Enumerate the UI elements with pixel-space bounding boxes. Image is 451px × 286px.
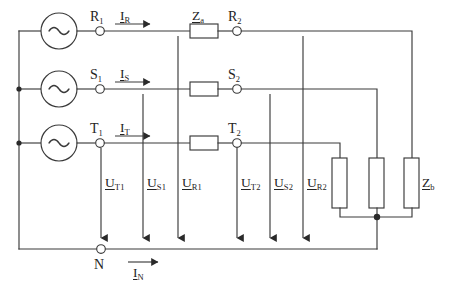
label-terminal-t2: T2 bbox=[228, 120, 241, 136]
label-voltage-u-r1: UR1 bbox=[182, 174, 202, 190]
terminal-r1[interactable] bbox=[96, 27, 105, 36]
label-terminal-n: N bbox=[94, 256, 104, 272]
terminal-s1[interactable] bbox=[96, 85, 105, 94]
ac-source-s bbox=[41, 71, 95, 107]
schematic-canvas bbox=[0, 0, 451, 286]
series-impedance-r bbox=[190, 24, 218, 38]
junction-dot-star-point bbox=[374, 214, 380, 220]
label-current-i-r: IR bbox=[120, 7, 130, 23]
label-terminal-r2: R2 bbox=[228, 8, 242, 24]
label-current-i-s: IS bbox=[120, 65, 129, 81]
label-voltage-u-t2: UT2 bbox=[241, 174, 261, 190]
label-terminal-r1: R1 bbox=[90, 8, 104, 24]
circuit-diagram: R1 S1 T1 IR IS IT Za R2 S2 T2 UT1 US1 UR… bbox=[0, 0, 451, 286]
terminal-t1[interactable] bbox=[96, 139, 105, 148]
label-voltage-u-t1: UT1 bbox=[105, 174, 125, 190]
label-terminal-t1: T1 bbox=[90, 120, 103, 136]
label-terminal-s1: S1 bbox=[90, 66, 102, 82]
terminal-n[interactable] bbox=[97, 245, 106, 254]
series-impedance-t bbox=[190, 136, 218, 150]
series-impedance-s bbox=[190, 82, 218, 96]
label-load-impedance-zb: Zb bbox=[422, 174, 435, 190]
junction-dot-t-bus bbox=[16, 140, 21, 145]
label-voltage-u-r2: UR2 bbox=[307, 174, 327, 190]
terminal-s2[interactable] bbox=[233, 85, 242, 94]
wire-r2-to-load bbox=[242, 31, 413, 158]
label-current-i-t: IT bbox=[120, 119, 130, 135]
load-impedance-s bbox=[369, 158, 384, 208]
wire-s2-to-load bbox=[242, 89, 378, 158]
label-voltage-u-s1: US1 bbox=[147, 174, 166, 190]
junction-dot-s-bus bbox=[16, 86, 21, 91]
label-series-impedance-za: Za bbox=[192, 7, 204, 23]
wire-t2-to-load bbox=[242, 143, 341, 158]
ac-source-r bbox=[41, 13, 95, 49]
label-terminal-s2: S2 bbox=[228, 66, 240, 82]
terminal-t2[interactable] bbox=[233, 139, 242, 148]
ac-source-t bbox=[41, 125, 95, 161]
load-impedance-t bbox=[332, 158, 347, 208]
terminal-r2[interactable] bbox=[233, 27, 242, 36]
label-current-i-n: IN bbox=[133, 264, 144, 280]
load-impedance-r bbox=[404, 158, 419, 208]
star-point-wires bbox=[101, 208, 412, 249]
label-voltage-u-s2: US2 bbox=[274, 174, 293, 190]
